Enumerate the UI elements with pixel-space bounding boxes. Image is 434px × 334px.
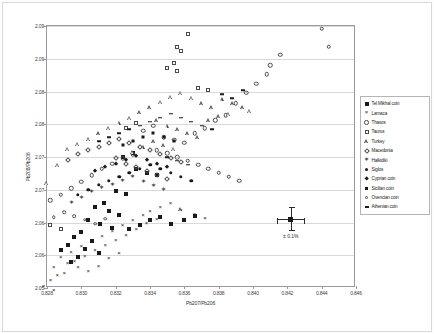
data-point [179,49,183,53]
data-point [98,222,102,226]
data-point: ∗ [161,187,167,193]
legend-marker-icon [363,119,370,126]
data-point: × [123,233,129,239]
data-point [128,171,132,175]
data-point: × [78,244,84,250]
y-tick-label: 2.08 [35,89,44,95]
data-point [165,124,169,128]
data-point [151,139,155,143]
data-point [189,121,193,123]
data-point [104,217,108,221]
data-point [148,163,152,167]
x-tick-mark [81,286,82,289]
data-point [127,116,131,120]
data-point: ∗ [120,178,126,184]
legend-item-tel-mikhal-coin[interactable]: Tel Mikhal coin [363,99,428,108]
data-point [152,132,155,135]
data-point [141,129,146,134]
legend-item-siglos[interactable]: Siglos [363,165,428,174]
data-point [237,178,242,183]
y-tick-mark [44,190,47,191]
data-point [206,88,210,92]
x-tick-label: 0.842 [282,290,294,296]
data-point [142,136,145,139]
data-point: × [133,227,139,233]
legend-marker-icon [363,100,370,107]
data-point [86,188,90,192]
data-point [241,89,245,91]
data-point: × [96,264,102,270]
data-point [278,53,283,58]
error-bar-center-marker [288,217,293,222]
data-point [244,91,249,96]
gridline [47,26,354,27]
data-point [144,157,149,162]
data-point [169,113,173,115]
data-point [107,209,111,213]
data-point: × [140,213,146,219]
data-point [148,121,152,123]
data-point [213,118,218,123]
x-tick-label: 0.840 [247,290,259,296]
figure-canvas: Pb208/Pb206 Pb207/Pb206 2.052.062.062.07… [0,0,434,334]
data-point: × [41,284,47,290]
data-point [159,167,163,171]
legend-item-turkey[interactable]: Turkey [363,137,428,146]
legend-item-larnaca[interactable]: ×Larnaca [363,108,428,117]
legend-item-macedonia[interactable]: Macedonia [363,146,428,155]
data-point [45,181,49,185]
data-point [230,97,234,99]
y-tick-label: 2.09 [35,56,44,62]
legend-item-cyprian-coin[interactable]: Cyprian coin [363,174,428,183]
legend-item-taurus[interactable]: Taurus [363,127,428,136]
x-tick-label: 0.830 [76,290,88,296]
data-point: × [120,223,126,229]
data-point: × [54,273,60,279]
data-point: ∗ [140,179,146,185]
y-tick-mark [44,124,47,125]
data-point [147,148,153,154]
data-point: × [89,239,95,245]
x-tick-mark [322,286,323,289]
data-point [48,223,52,227]
legend-item-sicilian-coin[interactable]: Sicilian coin [363,184,428,193]
error-bar-label: ± 0.1% [283,233,299,239]
data-point [241,105,245,109]
legend-label: Halkidiki [372,158,388,163]
y-tick-mark [44,157,47,158]
data-point: × [144,221,150,227]
legend-item-athenian-coin[interactable]: Athenian coin [363,202,428,211]
data-point [79,180,84,185]
y-tick-label: 2.07 [35,154,44,160]
data-point [127,129,131,131]
data-point: × [58,255,64,261]
data-point [165,66,169,70]
legend-label: Ovencian coin [372,195,399,200]
legend-marker-icon [363,138,370,145]
data-point [248,109,252,113]
legend-label: Sicilian coin [372,186,394,191]
y-tick-mark [44,92,47,93]
legend-marker-icon [363,185,370,192]
data-point [165,151,170,156]
legend-item-thasos[interactable]: Thasos [363,118,428,127]
data-point [254,81,259,86]
x-tick-mark [219,286,220,289]
data-point: ∗ [130,174,136,180]
legend-marker-icon [363,175,370,182]
data-point [175,127,179,131]
x-tick-label: 0.844 [316,290,328,296]
legend-label: Siglos [372,167,384,172]
data-point [189,179,193,183]
data-point: × [68,250,74,256]
legend-label: Athenian coin [372,204,398,209]
data-point: × [75,265,81,271]
data-point [117,121,121,125]
data-point [165,156,169,158]
x-tick-mark [287,286,288,289]
data-point [79,230,83,234]
legend-item-halkidiki[interactable]: ∗Halkidiki [363,155,428,164]
legend-item-ovencian-coin[interactable]: Ovencian coin [363,193,428,202]
x-tick-label: 0.834 [144,290,156,296]
data-point: × [65,261,71,267]
